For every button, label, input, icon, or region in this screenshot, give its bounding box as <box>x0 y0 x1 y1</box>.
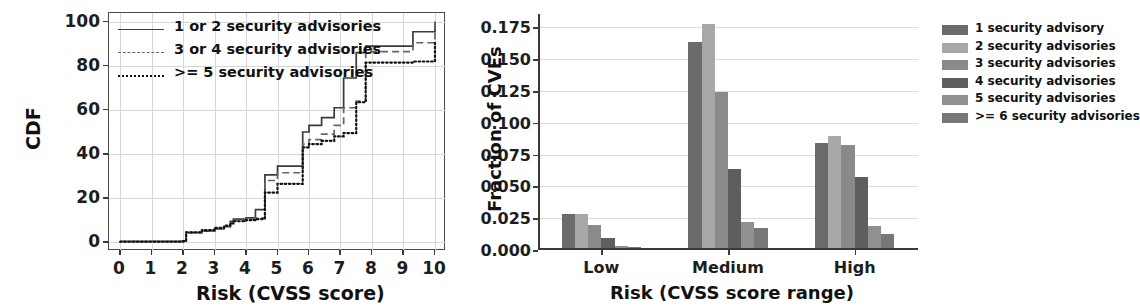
cdf-y-tick-label: 20 <box>54 187 100 207</box>
bars-x-tick-label: Medium <box>683 258 773 277</box>
cdf-x-tick-label: 1 <box>138 258 164 278</box>
cdf-x-tick-label: 5 <box>264 258 290 278</box>
cdf-legend-line-sample <box>118 75 164 77</box>
cdf-y-axis-label: CDF <box>22 107 44 150</box>
cdf-y-tick <box>103 109 108 111</box>
bars-x-tick <box>601 250 603 255</box>
bar-low-series-3 <box>588 225 601 250</box>
bars-legend-label: 1 security advisory <box>975 21 1104 35</box>
cdf-x-tick <box>402 250 404 255</box>
cdf-y-tick-label: 100 <box>54 11 100 31</box>
cdf-x-tick-label: 8 <box>358 258 384 278</box>
bars-y-tick-label: 0.175 <box>469 18 531 37</box>
bars-gridline-horizontal <box>538 27 918 28</box>
bars-y-tick-label: 0.000 <box>469 241 531 260</box>
cdf-legend-label: 3 or 4 security advisories <box>174 41 381 57</box>
cdf-y-tick-label: 60 <box>54 99 100 119</box>
cdf-x-tick-label: 3 <box>201 258 227 278</box>
bars-legend-label: 4 security advisories <box>975 74 1116 88</box>
cdf-legend-item: 1 or 2 security advisories <box>118 18 338 41</box>
cdf-x-tick <box>119 250 121 255</box>
bar-medium-series-4 <box>728 169 741 250</box>
bars-plot-area <box>538 14 918 250</box>
bars-legend-label: 2 security advisories <box>975 39 1116 53</box>
cdf-y-tick <box>103 197 108 199</box>
bars-legend-color-swatch <box>942 25 968 35</box>
cdf-x-tick-label: 0 <box>106 258 132 278</box>
chart-panel-fraction-of-cves: 0.0000.0250.0500.0750.1000.1250.1500.175… <box>470 0 953 307</box>
bar-high-series-5 <box>868 226 881 250</box>
cdf-y-tick <box>103 21 108 23</box>
cdf-y-tick-label: 40 <box>54 143 100 163</box>
bars-legend-color-swatch <box>942 95 968 105</box>
cdf-y-tick <box>103 65 108 67</box>
cdf-x-tick <box>277 250 279 255</box>
bar-high-series-4 <box>855 177 868 250</box>
bars-x-tick-label: High <box>810 258 900 277</box>
cdf-x-tick <box>151 250 153 255</box>
bars-legend-label: 3 security advisories <box>975 56 1116 70</box>
cdf-x-tick <box>339 250 341 255</box>
bar-medium-series-5 <box>741 222 754 250</box>
cdf-x-tick <box>308 250 310 255</box>
bars-x-tick <box>728 250 730 255</box>
chart-panel-cdf: 012345678910020406080100 CDF Risk (CVSS … <box>0 0 470 307</box>
bars-y-tick <box>533 186 538 188</box>
bars-legend-color-swatch <box>942 43 968 53</box>
bars-y-axis-label: Fraction of CVEs <box>484 46 505 212</box>
cdf-x-tick <box>182 250 184 255</box>
bar-high-series-2 <box>828 136 841 251</box>
cdf-legend-line-sample <box>118 52 164 53</box>
bars-y-tick <box>533 91 538 93</box>
cdf-x-tick-label: 2 <box>169 258 195 278</box>
bars-y-tick <box>533 250 538 252</box>
bars-y-axis-spine <box>538 14 540 250</box>
cdf-legend-label: >= 5 security advisories <box>174 64 373 80</box>
bars-legend-label: 5 security advisories <box>975 91 1116 105</box>
cdf-x-axis-label: Risk (CVSS score) <box>196 282 385 304</box>
cdf-x-tick <box>434 250 436 255</box>
bars-legend: 1 security advisory2 security advisories… <box>937 18 947 129</box>
bars-legend-label: >= 6 security advisories <box>975 109 1140 123</box>
bars-legend-color-swatch <box>942 60 968 70</box>
cdf-legend-label: 1 or 2 security advisories <box>174 18 381 34</box>
bars-y-tick <box>533 218 538 220</box>
cdf-legend-item: >= 5 security advisories <box>118 64 338 87</box>
cdf-y-tick-label: 80 <box>54 55 100 75</box>
cdf-x-tick <box>245 250 247 255</box>
bar-medium-series-2 <box>702 24 715 250</box>
bars-x-axis-label: Risk (CVSS score range) <box>610 282 854 303</box>
cdf-legend: 1 or 2 security advisories3 or 4 securit… <box>118 18 338 87</box>
bars-y-tick-label: 0.025 <box>469 209 531 228</box>
bars-gridline-horizontal <box>538 123 918 124</box>
cdf-x-tick-label: 10 <box>421 258 447 278</box>
cdf-legend-line-sample <box>118 29 164 30</box>
bar-medium-series-6 <box>754 228 767 250</box>
bars-x-tick <box>855 250 857 255</box>
cdf-legend-item: 3 or 4 security advisories <box>118 41 338 64</box>
bars-y-tick <box>533 27 538 29</box>
bars-gridline-horizontal <box>538 91 918 92</box>
cdf-x-tick-label: 6 <box>295 258 321 278</box>
bar-low-series-2 <box>575 214 588 250</box>
cdf-y-tick <box>103 153 108 155</box>
bars-y-tick <box>533 155 538 157</box>
cdf-x-tick-label: 7 <box>326 258 352 278</box>
bars-legend-color-swatch <box>942 113 968 123</box>
bar-high-series-3 <box>841 145 854 250</box>
cdf-x-tick <box>214 250 216 255</box>
bars-y-tick <box>533 123 538 125</box>
bars-gridline-horizontal <box>538 59 918 60</box>
bars-legend-color-swatch <box>942 78 968 88</box>
cdf-x-tick-label: 4 <box>232 258 258 278</box>
cdf-y-tick-label: 0 <box>54 231 100 251</box>
bar-medium-series-3 <box>715 92 728 250</box>
bar-low-series-1 <box>562 214 575 250</box>
bars-gridline-horizontal <box>538 155 918 156</box>
bar-high-series-1 <box>815 143 828 251</box>
cdf-x-tick-label: 9 <box>389 258 415 278</box>
cdf-x-tick <box>371 250 373 255</box>
bar-medium-series-1 <box>688 42 701 250</box>
cdf-y-tick <box>103 241 108 243</box>
